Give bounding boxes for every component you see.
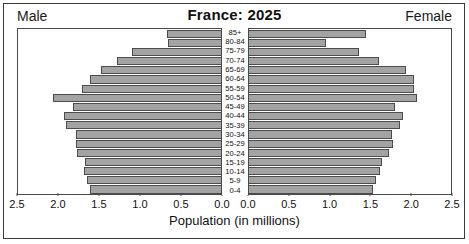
female-bar-40-44: [248, 112, 403, 120]
bar-row: [18, 29, 221, 38]
male-bar-85plus: [167, 30, 222, 38]
bar-row: [249, 47, 451, 56]
age-group-label: 75-79: [222, 47, 248, 56]
female-bar-15-19: [248, 158, 382, 166]
female-bar-5-9: [248, 176, 376, 184]
x-axis-title: Population (in millions): [0, 213, 469, 228]
female-bar-75-79: [248, 48, 359, 56]
age-group-label: 25-29: [222, 139, 248, 148]
male-bar-rows: [18, 29, 221, 194]
female-tick-mark: [452, 193, 453, 196]
bar-row: [18, 139, 221, 148]
female-bar-20-24: [248, 149, 389, 157]
bar-row: [249, 130, 451, 139]
male-bar-10-14: [84, 167, 222, 175]
bar-row: [18, 167, 221, 176]
age-group-label: 40-44: [222, 112, 248, 121]
age-group-label: 5-9: [222, 177, 248, 186]
bar-row: [18, 185, 221, 194]
age-group-label: 35-39: [222, 121, 248, 130]
bar-row: [249, 139, 451, 148]
male-bar-35-39: [66, 121, 222, 129]
female-bar-25-29: [248, 140, 393, 148]
female-bar-60-64: [248, 75, 414, 83]
female-tick-mark: [411, 193, 412, 196]
female-tick-label: 2.5: [444, 198, 459, 210]
age-group-label: 30-34: [222, 130, 248, 139]
age-group-label: 15-19: [222, 158, 248, 167]
age-group-label: 50-54: [222, 93, 248, 102]
bar-row: [249, 38, 451, 47]
chart-title: France: 2025: [0, 6, 469, 23]
male-tick-label: 0.5: [173, 198, 188, 210]
female-tick-mark: [329, 193, 330, 196]
bar-row: [18, 130, 221, 139]
male-bar-5-9: [87, 176, 222, 184]
female-tick-mark: [288, 193, 289, 196]
male-bar-0-4: [90, 185, 222, 193]
male-bar-25-29: [76, 140, 222, 148]
male-bar-30-34: [76, 130, 222, 138]
bar-row: [18, 93, 221, 102]
female-tick-label: 1.0: [322, 198, 337, 210]
age-group-label: 60-64: [222, 74, 248, 83]
female-tick-mark: [370, 193, 371, 196]
age-group-label-column: 85+80-8475-7970-7465-6960-6455-5950-5445…: [222, 28, 248, 195]
male-tick-label: 1.0: [132, 198, 147, 210]
female-axis-ticks: 0.00.51.01.52.02.5: [248, 196, 452, 214]
male-bar-55-59: [82, 85, 222, 93]
bar-row: [249, 84, 451, 93]
bar-row: [18, 84, 221, 93]
bar-row: [18, 47, 221, 56]
female-bar-65-69: [248, 66, 406, 74]
age-group-label: 65-69: [222, 65, 248, 74]
male-bar-45-49: [73, 103, 222, 111]
male-bar-80-84: [168, 39, 222, 47]
bar-row: [249, 148, 451, 157]
age-group-label: 70-74: [222, 56, 248, 65]
bar-row: [18, 157, 221, 166]
female-plot-panel: [248, 28, 452, 195]
bar-row: [249, 167, 451, 176]
male-tick-mark: [17, 193, 18, 196]
male-bar-20-24: [77, 149, 222, 157]
female-bar-80-84: [248, 39, 326, 47]
female-tick-label: 0.5: [281, 198, 296, 210]
female-bar-10-14: [248, 167, 380, 175]
male-tick-label: 0.0: [214, 198, 229, 210]
female-bar-50-54: [248, 94, 417, 102]
age-group-label: 85+: [222, 28, 248, 37]
age-group-label: 80-84: [222, 37, 248, 46]
bar-row: [249, 185, 451, 194]
female-bar-0-4: [248, 185, 373, 193]
bar-row: [18, 57, 221, 66]
male-bar-70-74: [117, 57, 222, 65]
bar-row: [18, 148, 221, 157]
male-tick-mark: [58, 193, 59, 196]
male-axis-label: Male: [17, 8, 47, 24]
male-tick-mark: [99, 193, 100, 196]
female-axis-label: Female: [405, 8, 452, 24]
male-axis-ticks: 2.52.01.51.00.50.0: [17, 196, 222, 214]
male-bar-60-64: [90, 75, 222, 83]
female-bar-rows: [249, 29, 451, 194]
female-tick-label: 2.0: [404, 198, 419, 210]
bar-row: [249, 29, 451, 38]
bar-row: [249, 176, 451, 185]
male-bar-50-54: [53, 94, 222, 102]
female-bar-30-34: [248, 130, 392, 138]
female-bar-70-74: [248, 57, 379, 65]
male-bar-15-19: [85, 158, 222, 166]
bar-row: [249, 112, 451, 121]
bar-row: [249, 102, 451, 111]
female-tick-label: 0.0: [240, 198, 255, 210]
male-tick-label: 1.5: [91, 198, 106, 210]
male-bar-75-79: [132, 48, 222, 56]
male-bar-40-44: [64, 112, 222, 120]
bar-row: [18, 102, 221, 111]
population-pyramid-figure: France: 2025 Male Female 85+80-8475-7970…: [0, 0, 469, 244]
male-tick-mark: [181, 193, 182, 196]
female-bar-85plus: [248, 30, 366, 38]
bar-row: [249, 75, 451, 84]
age-group-label: 10-14: [222, 167, 248, 176]
